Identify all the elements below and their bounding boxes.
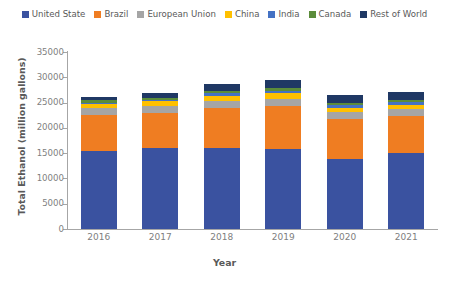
bar-segment-canada[interactable]	[327, 103, 363, 105]
legend-item-label: India	[278, 10, 299, 19]
x-axis-line	[67, 229, 438, 230]
legend-item-label: Brazil	[104, 10, 128, 19]
legend-item-united-state[interactable]: United State	[22, 10, 86, 19]
bar-segment-india[interactable]	[142, 100, 178, 102]
bar-segment-china[interactable]	[142, 101, 178, 105]
legend-item-label: United State	[32, 10, 86, 19]
y-tick-label: 15000	[0, 149, 71, 158]
bar-segment-rest-of-world[interactable]	[388, 92, 424, 100]
bar-segment-india[interactable]	[327, 105, 363, 108]
bar-segment-european-union[interactable]	[81, 108, 117, 115]
bar-segment-united-state[interactable]	[142, 148, 178, 229]
y-tick-label: 30000	[0, 73, 71, 82]
y-tick-label: 10000	[0, 174, 71, 183]
chart-legend: United StateBrazilEuropean UnionChinaInd…	[0, 10, 449, 19]
x-tick-label-2021: 2021	[366, 233, 446, 242]
legend-item-canada[interactable]: Canada	[309, 10, 352, 19]
legend-swatch-icon	[94, 11, 101, 18]
bar-segment-brazil[interactable]	[327, 119, 363, 159]
bar-segment-brazil[interactable]	[265, 106, 301, 149]
y-tick-label: 5000	[0, 199, 71, 208]
bar-segment-china[interactable]	[265, 93, 301, 98]
bar-segment-canada[interactable]	[81, 100, 117, 102]
bar-segment-rest-of-world[interactable]	[142, 93, 178, 98]
y-tick-label: 25000	[0, 98, 71, 107]
bar-segment-united-state[interactable]	[265, 149, 301, 229]
bar-segment-china[interactable]	[327, 108, 363, 112]
bar-segment-canada[interactable]	[388, 100, 424, 102]
bar-segment-india[interactable]	[388, 102, 424, 105]
bar-group-2021[interactable]	[388, 52, 424, 229]
legend-item-india[interactable]: India	[268, 10, 299, 19]
plot-area	[68, 52, 437, 229]
bar-segment-brazil[interactable]	[388, 116, 424, 153]
legend-swatch-icon	[360, 11, 367, 18]
legend-item-label: China	[235, 10, 260, 19]
legend-swatch-icon	[137, 11, 144, 18]
y-tick-label: 35000	[0, 48, 71, 57]
y-tick-label: 20000	[0, 123, 71, 132]
legend-swatch-icon	[268, 11, 275, 18]
legend-item-china[interactable]: China	[225, 10, 260, 19]
bar-group-2016[interactable]	[81, 52, 117, 229]
bar-segment-european-union[interactable]	[327, 112, 363, 119]
bar-segment-canada[interactable]	[265, 88, 301, 91]
stacked-bar-chart: United StateBrazilEuropean UnionChinaInd…	[0, 0, 449, 282]
bar-segment-china[interactable]	[388, 105, 424, 109]
bar-segment-european-union[interactable]	[204, 101, 240, 108]
legend-item-brazil[interactable]: Brazil	[94, 10, 128, 19]
bar-segment-united-state[interactable]	[204, 148, 240, 229]
bar-segment-brazil[interactable]	[142, 113, 178, 148]
bar-segment-rest-of-world[interactable]	[327, 95, 363, 103]
bar-segment-rest-of-world[interactable]	[204, 84, 240, 91]
bar-segment-brazil[interactable]	[81, 115, 117, 151]
bar-segment-china[interactable]	[81, 104, 117, 108]
legend-item-label: European Union	[147, 10, 216, 19]
legend-item-label: Rest of World	[370, 10, 427, 19]
x-axis-title: Year	[0, 257, 449, 268]
legend-swatch-icon	[309, 11, 316, 18]
bar-segment-european-union[interactable]	[388, 109, 424, 116]
bar-segment-united-state[interactable]	[388, 153, 424, 229]
bar-group-2017[interactable]	[142, 52, 178, 229]
legend-item-european-union[interactable]: European Union	[137, 10, 216, 19]
bar-segment-canada[interactable]	[142, 98, 178, 100]
bar-group-2020[interactable]	[327, 52, 363, 229]
bar-segment-china[interactable]	[204, 96, 240, 101]
legend-swatch-icon	[22, 11, 29, 18]
legend-item-rest-of-world[interactable]: Rest of World	[360, 10, 427, 19]
bar-group-2019[interactable]	[265, 52, 301, 229]
bar-segment-united-state[interactable]	[327, 159, 363, 229]
bar-segment-canada[interactable]	[204, 91, 240, 94]
bar-segment-european-union[interactable]	[265, 99, 301, 106]
bar-group-2018[interactable]	[204, 52, 240, 229]
y-tick-label: 0	[0, 225, 71, 234]
bar-segment-rest-of-world[interactable]	[81, 97, 117, 101]
legend-swatch-icon	[225, 11, 232, 18]
bar-segment-european-union[interactable]	[142, 106, 178, 113]
bar-segment-rest-of-world[interactable]	[265, 80, 301, 89]
bar-segment-india[interactable]	[81, 103, 117, 104]
bar-segment-india[interactable]	[265, 91, 301, 94]
bar-segment-india[interactable]	[204, 93, 240, 95]
bar-segment-united-state[interactable]	[81, 151, 117, 229]
bar-segment-brazil[interactable]	[204, 108, 240, 148]
legend-item-label: Canada	[319, 10, 352, 19]
y-axis-title: Total Ethanol (million gallons)	[16, 42, 27, 232]
